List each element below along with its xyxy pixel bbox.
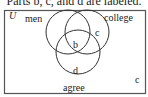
set-label-college: college <box>104 12 133 23</box>
universe-label: U <box>9 10 17 21</box>
region-label-d: d <box>73 65 78 76</box>
region-label-c-inner: c <box>95 27 100 38</box>
region-label-c-outer: c <box>135 74 140 85</box>
set-label-agree: agree <box>63 82 85 93</box>
venn-diagram: U men college agree b c d c <box>0 0 148 97</box>
region-label-b: b <box>73 39 78 50</box>
set-label-men: men <box>25 13 42 24</box>
